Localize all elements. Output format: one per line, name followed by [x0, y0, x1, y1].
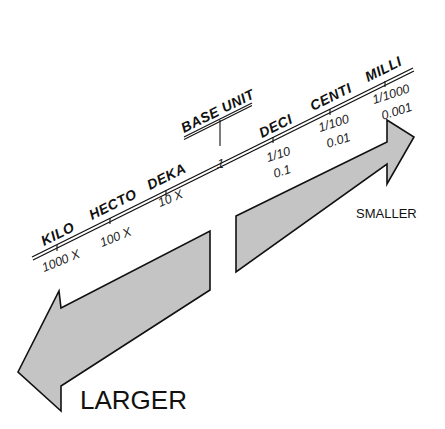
value-hecto: 100 X: [98, 224, 134, 249]
value-centi-decimal: 0.01: [325, 130, 352, 151]
value-kilo: 1000 X: [40, 247, 83, 275]
value-base: 1: [217, 157, 224, 171]
smaller-label: SMALLER: [356, 206, 417, 221]
value-deci-decimal: 0.1: [272, 162, 293, 181]
larger-label: LARGER: [80, 385, 187, 415]
value-deka: 10 X: [156, 187, 186, 210]
metric-prefix-diagram: KILO HECTO DEKA BASE UNIT DECI CENTI MIL…: [0, 0, 445, 429]
prefix-milli: MILLI: [362, 53, 405, 85]
prefix-deka: DEKA: [144, 160, 188, 193]
base-unit-label: BASE UNIT: [178, 85, 258, 135]
